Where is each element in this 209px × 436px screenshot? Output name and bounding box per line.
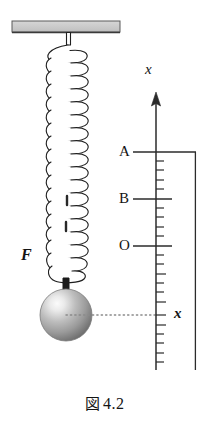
axis-direction-label: x — [145, 62, 152, 77]
axis-label-o: O — [119, 238, 130, 253]
ceiling-support — [12, 21, 120, 33]
axis-major-ticks — [133, 152, 172, 246]
physics-figure: x A B O x F 図4.2 — [0, 0, 209, 436]
vertical-x-axis — [133, 92, 196, 370]
figure-caption: 図4.2 — [0, 392, 209, 413]
spring-coils — [46, 45, 88, 283]
figure-canvas — [0, 0, 209, 436]
axis-label-b: B — [119, 191, 129, 206]
axis-label-a: A — [119, 144, 130, 159]
helical-spring — [46, 33, 88, 295]
axis-minor-ticks — [156, 161, 166, 362]
ceiling-bar-fill — [12, 21, 120, 32]
caption-figure-number: 4.2 — [103, 395, 125, 412]
displacement-bracket — [156, 152, 196, 370]
force-label: F — [21, 247, 32, 263]
caption-figure-symbol: 図 — [85, 395, 101, 413]
spring-top-lead — [67, 33, 71, 46]
displacement-label: x — [174, 306, 182, 321]
